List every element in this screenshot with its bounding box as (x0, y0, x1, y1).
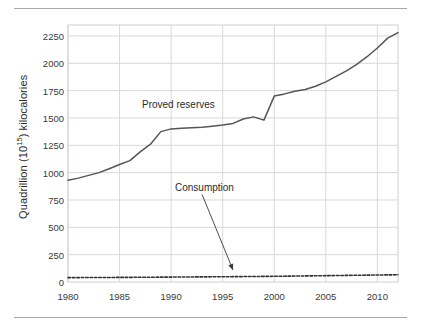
x-tick-label: 1985 (100, 291, 140, 302)
x-tick-label: 1980 (48, 291, 88, 302)
consumption-label: Consumption (175, 182, 234, 193)
x-tick-label: 2000 (254, 291, 294, 302)
chart-figure: Quadrillion (1015) kilocalories 02505007… (0, 0, 421, 328)
plot-area (0, 0, 421, 328)
gridlines (68, 25, 398, 282)
x-tick-label: 1995 (203, 291, 243, 302)
series-line (68, 275, 398, 278)
series-layer (68, 33, 398, 278)
x-tick-label: 1990 (151, 291, 191, 302)
annotation-arrow-layer (202, 195, 233, 270)
x-tick-label: 2005 (306, 291, 346, 302)
proved-reserves-label: Proved reserves (142, 99, 215, 110)
x-tick-label: 2010 (357, 291, 397, 302)
annotation-arrow-line (202, 195, 233, 270)
series-line (68, 33, 398, 181)
